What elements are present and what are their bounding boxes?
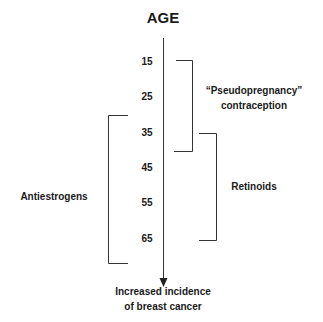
- pseudopregnancy-label-line1: “Pseudopregnancy”: [206, 83, 303, 98]
- retinoids-bracket: [199, 134, 217, 241]
- diagram-lines: [0, 0, 323, 322]
- antiestrogens-bracket: [109, 116, 129, 264]
- age-tick-45: 45: [141, 163, 152, 173]
- axis-end-label: Increased incidence of breast cancer: [115, 284, 211, 314]
- axis-end-label-line1: Increased incidence: [115, 284, 211, 299]
- pseudopregnancy-label: “Pseudopregnancy” contraception: [206, 83, 303, 113]
- age-tick-65: 65: [141, 234, 152, 244]
- age-tick-25: 25: [141, 92, 152, 102]
- age-tick-55: 55: [141, 198, 152, 208]
- axis-end-label-line2: of breast cancer: [115, 299, 211, 314]
- age-tick-15: 15: [141, 57, 152, 67]
- pseudopregnancy-label-line2: contraception: [206, 98, 303, 113]
- age-tick-35: 35: [141, 128, 152, 138]
- retinoids-label: Retinoids: [231, 179, 277, 194]
- antiestrogens-label: Antiestrogens: [20, 189, 87, 204]
- pseudopregnancy-bracket: [174, 61, 193, 152]
- axis-title: AGE: [147, 10, 180, 25]
